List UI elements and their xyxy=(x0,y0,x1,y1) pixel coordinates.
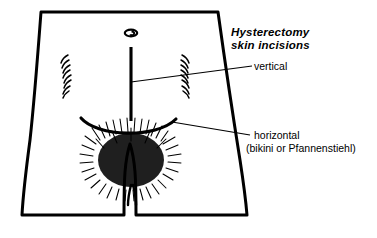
figure-illustration: Hysterectomy skin incisions vertical hor… xyxy=(0,0,377,238)
figure-title-line1: Hysterectomy xyxy=(231,26,310,38)
label-horizontal: horizontal xyxy=(254,129,300,141)
label-vertical: vertical xyxy=(254,60,287,72)
label-horizontal-alt: (bikini or Pfannenstiehl) xyxy=(246,142,356,154)
hysterectomy-skin-incisions-figure: Hysterectomy skin incisions vertical hor… xyxy=(0,0,377,238)
figure-title-line2: skin incisions xyxy=(231,39,310,51)
